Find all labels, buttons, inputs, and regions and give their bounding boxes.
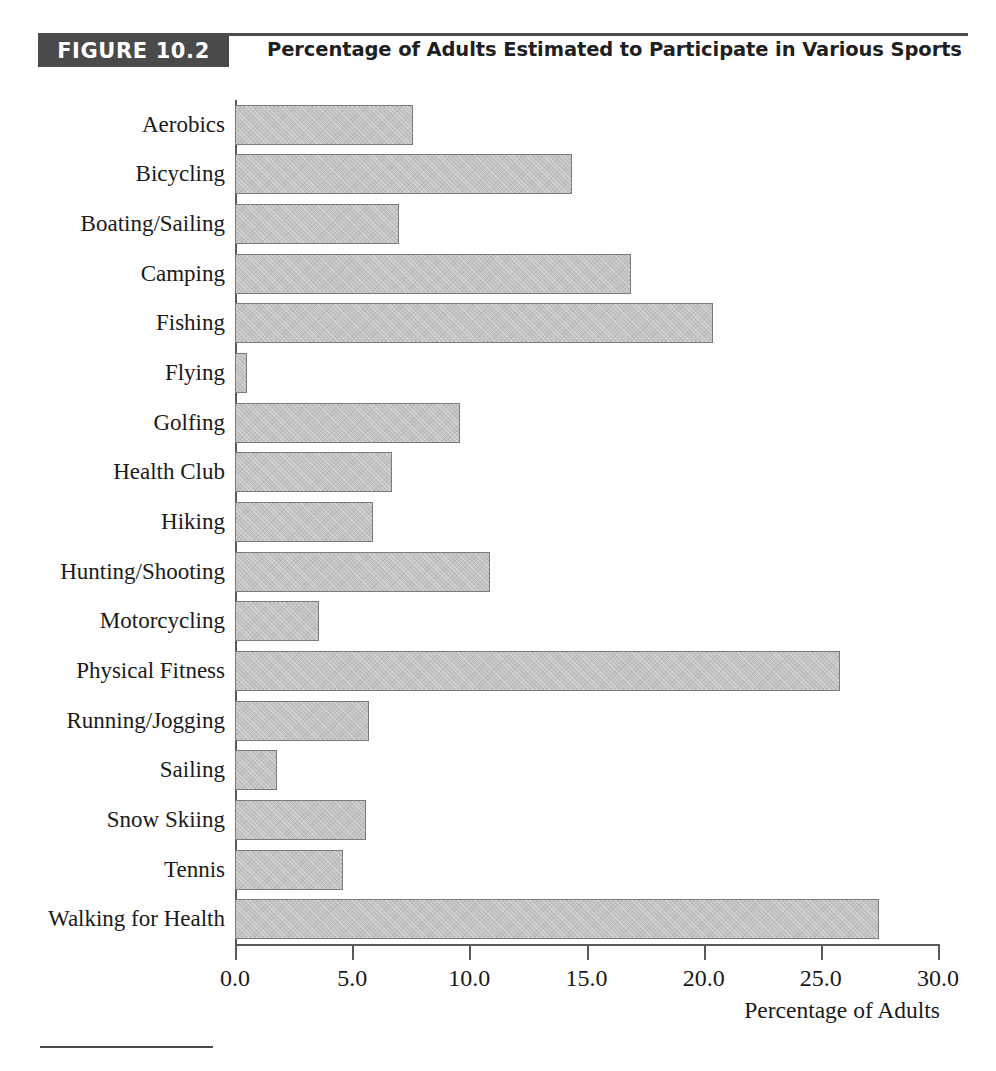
y-axis-label: Flying: [13, 359, 225, 387]
bar-fishing: [235, 303, 713, 343]
x-axis-tick: [938, 946, 940, 960]
x-axis-title: Percentage of Adults: [600, 996, 940, 1024]
bar-chart: AerobicsBicyclingBoating/SailingCampingF…: [0, 0, 996, 1071]
bar-rect: [235, 899, 879, 939]
x-axis-tick: [587, 946, 589, 960]
bar-aerobics: [235, 105, 413, 145]
y-axis-label: Golfing: [13, 409, 225, 437]
x-axis-tick-label: 15.0: [542, 963, 632, 993]
y-axis-label: Physical Fitness: [13, 657, 225, 685]
y-axis-label: Hiking: [13, 508, 225, 536]
bar-rect: [235, 601, 319, 641]
bar-rect: [235, 750, 277, 790]
bar-camping: [235, 254, 631, 294]
y-axis-label: Health Club: [13, 458, 225, 486]
y-axis-label: Fishing: [13, 309, 225, 337]
bar-rect: [235, 502, 373, 542]
bar-sailing: [235, 750, 277, 790]
bar-rect: [235, 800, 366, 840]
bar-flying: [235, 353, 247, 393]
x-axis-tick: [704, 946, 706, 960]
x-axis-tick-label: 20.0: [659, 963, 749, 993]
bar-rect: [235, 403, 460, 443]
bar-hiking: [235, 502, 373, 542]
x-axis-tick-label: 25.0: [776, 963, 866, 993]
y-axis-label: Hunting/Shooting: [13, 558, 225, 586]
bar-boating-sailing: [235, 204, 399, 244]
bar-rect: [235, 254, 631, 294]
y-axis-label: Sailing: [13, 756, 225, 784]
bar-running-jogging: [235, 701, 369, 741]
y-axis-label: Camping: [13, 260, 225, 288]
bar-rect: [235, 850, 343, 890]
y-axis-label: Walking for Health: [13, 905, 225, 933]
bar-bicycling: [235, 154, 572, 194]
footer-rule: [40, 1046, 213, 1048]
bar-rect: [235, 651, 840, 691]
bar-tennis: [235, 850, 343, 890]
x-axis-tick-label: 30.0: [893, 963, 983, 993]
bar-rect: [235, 204, 399, 244]
bar-walking-for-health: [235, 899, 879, 939]
bar-physical-fitness: [235, 651, 840, 691]
x-axis-tick: [352, 946, 354, 960]
bar-rect: [235, 105, 413, 145]
x-axis-tick-label: 5.0: [307, 963, 397, 993]
x-axis-tick-label: 10.0: [424, 963, 514, 993]
bar-snow-skiing: [235, 800, 366, 840]
bar-rect: [235, 552, 490, 592]
bar-rect: [235, 154, 572, 194]
bar-rect: [235, 303, 713, 343]
y-axis-labels: AerobicsBicyclingBoating/SailingCampingF…: [10, 0, 225, 1071]
bar-health-club: [235, 452, 392, 492]
y-axis-label: Boating/Sailing: [13, 210, 225, 238]
x-axis-tick: [235, 946, 237, 960]
x-axis-tick: [821, 946, 823, 960]
y-axis-label: Running/Jogging: [13, 707, 225, 735]
bar-rect: [235, 353, 247, 393]
y-axis-label: Snow Skiing: [13, 806, 225, 834]
x-axis-tick-label: 0.0: [190, 963, 280, 993]
bar-hunting-shooting: [235, 552, 490, 592]
bar-rect: [235, 701, 369, 741]
bar-golfing: [235, 403, 460, 443]
x-axis-tick: [469, 946, 471, 960]
bar-rect: [235, 452, 392, 492]
y-axis-label: Aerobics: [13, 111, 225, 139]
y-axis-label: Bicycling: [13, 160, 225, 188]
bar-motorcycling: [235, 601, 319, 641]
y-axis-label: Tennis: [13, 856, 225, 884]
y-axis-label: Motorcycling: [13, 607, 225, 635]
